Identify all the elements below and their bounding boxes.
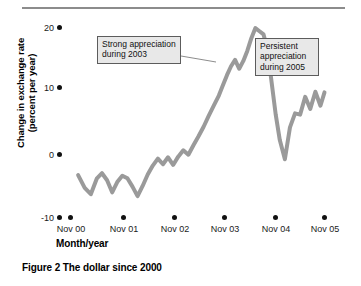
annotation-leader-line	[181, 56, 216, 62]
figure-caption: Figure 2 The dollar since 2000	[22, 262, 162, 273]
annotation-persistent-appreciation-2005: Persistent appreciation during 2005	[255, 38, 319, 76]
figure-container: Change in exchange rate (percent per yea…	[0, 0, 361, 286]
annotation-strong-appreciation-2003: Strong appreciation during 2003	[97, 36, 181, 64]
